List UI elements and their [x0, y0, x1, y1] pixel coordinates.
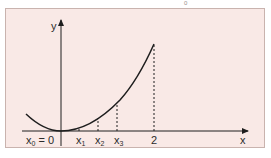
function-plot: y x x0 = 0 x1 x2 x3 2	[0, 0, 271, 158]
tick-label-x3: x3	[114, 134, 124, 147]
y-axis-label: y	[51, 20, 57, 32]
tick-label-x1: x1	[76, 134, 86, 147]
curve	[26, 44, 154, 131]
tick-label-x0: x0 = 0	[26, 134, 54, 147]
tick-label-two: 2	[151, 134, 157, 146]
x-axis-label: x	[240, 134, 246, 146]
tick-label-x2: x2	[95, 134, 105, 147]
